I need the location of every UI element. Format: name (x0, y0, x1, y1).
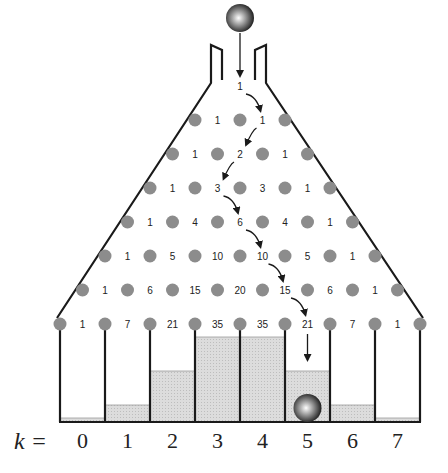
right-wall (255, 45, 423, 318)
bin-label-2: 2 (167, 428, 178, 453)
pascal-number: 35 (257, 319, 269, 330)
ball-top (226, 4, 254, 32)
peg (189, 114, 202, 127)
peg (166, 216, 179, 229)
pascal-number: 15 (279, 285, 291, 296)
peg (234, 250, 247, 263)
peg (234, 182, 247, 195)
pascal-number: 5 (170, 251, 176, 262)
peg (54, 318, 67, 331)
peg (346, 216, 359, 229)
bin-label-7: 7 (392, 428, 403, 453)
peg (211, 216, 224, 229)
peg (99, 250, 112, 263)
pascal-number: 10 (257, 251, 269, 262)
pascal-number: 21 (167, 319, 179, 330)
pascal-number: 1 (80, 319, 86, 330)
pascal-number: 1 (260, 115, 266, 126)
pascal-number: 6 (327, 285, 333, 296)
pascal-number: 1 (305, 183, 311, 194)
bin-labels: k =01234567 (14, 428, 403, 454)
bin-fill-6 (330, 405, 375, 422)
peg (166, 284, 179, 297)
bin-label-0: 0 (77, 428, 88, 453)
galton-board-diagram: 1111211331146411510105116152015611721353… (0, 0, 448, 473)
peg (324, 318, 337, 331)
peg (76, 284, 89, 297)
peg (234, 114, 247, 127)
bin-label-5: 5 (302, 428, 313, 453)
pascal-number: 6 (147, 285, 153, 296)
pascal-number: 7 (350, 319, 356, 330)
pascal-number: 35 (212, 319, 224, 330)
pascal-number: 3 (260, 183, 266, 194)
left-wall (57, 45, 222, 318)
pascal-number-top: 1 (237, 81, 243, 92)
path-arrow (224, 162, 235, 179)
pascal-number: 1 (282, 149, 288, 160)
pascal-number: 1 (372, 285, 378, 296)
bin-fill-3 (195, 337, 240, 422)
pascal-number: 2 (237, 149, 243, 160)
bin-label-4: 4 (257, 428, 268, 453)
pascal-number: 1 (170, 183, 176, 194)
peg (256, 284, 269, 297)
peg (211, 148, 224, 161)
pascal-number: 1 (147, 217, 153, 228)
peg (279, 250, 292, 263)
peg (99, 318, 112, 331)
peg (121, 216, 134, 229)
pascal-number: 1 (327, 217, 333, 228)
pascal-number: 1 (215, 115, 221, 126)
peg (234, 318, 247, 331)
peg (144, 182, 157, 195)
peg (324, 182, 337, 195)
galton-board-svg: 1111211331146411510105116152015611721353… (0, 0, 448, 473)
pascal-number: 15 (189, 285, 201, 296)
path-arrow (269, 264, 284, 281)
bin-fill-2 (150, 371, 195, 422)
pascal-number: 1 (192, 149, 198, 160)
bin-label-3: 3 (212, 428, 223, 453)
peg (121, 284, 134, 297)
bin-fill-4 (240, 337, 285, 422)
peg (301, 216, 314, 229)
pascal-number: 1 (125, 251, 131, 262)
pascal-number: 4 (282, 217, 288, 228)
peg (189, 250, 202, 263)
k-label: k = (14, 428, 47, 454)
pascal-number: 1 (350, 251, 356, 262)
bin-fill-1 (105, 405, 150, 422)
peg (279, 318, 292, 331)
peg (256, 216, 269, 229)
path-arrow (246, 128, 257, 145)
peg (189, 318, 202, 331)
peg (346, 284, 359, 297)
peg (166, 148, 179, 161)
peg (301, 284, 314, 297)
pascal-number: 1 (395, 319, 401, 330)
peg (279, 114, 292, 127)
peg (391, 284, 404, 297)
peg (279, 182, 292, 195)
peg (144, 250, 157, 263)
path-arrow (246, 94, 261, 111)
pascal-number: 5 (305, 251, 311, 262)
bin-label-1: 1 (122, 428, 133, 453)
pascal-number: 3 (215, 183, 221, 194)
board-outline (57, 45, 423, 422)
pascal-number: 4 (192, 217, 198, 228)
path-arrow (224, 196, 239, 213)
pascal-number: 1 (102, 285, 108, 296)
pascal-number: 20 (234, 285, 246, 296)
peg (144, 318, 157, 331)
path-arrow (246, 230, 261, 247)
path-arrow (291, 298, 306, 315)
pascal-number: 6 (237, 217, 243, 228)
peg (324, 250, 337, 263)
peg (211, 284, 224, 297)
ball-landed (294, 394, 322, 422)
peg (256, 148, 269, 161)
peg (369, 250, 382, 263)
peg (369, 318, 382, 331)
